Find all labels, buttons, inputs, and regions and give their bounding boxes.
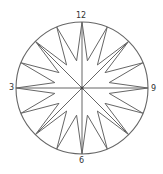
- star-figure: [0, 0, 163, 174]
- label-right: 9: [151, 85, 156, 93]
- center-ray: [82, 41, 129, 88]
- compass-star-diagram: 12 9 6 3: [0, 0, 163, 174]
- label-left: 3: [9, 84, 14, 92]
- label-top: 12: [76, 12, 86, 20]
- center-dot: [81, 87, 84, 90]
- center-ray: [35, 41, 82, 88]
- label-bottom: 6: [79, 157, 84, 165]
- center-ray: [82, 88, 129, 135]
- center-ray: [35, 88, 82, 135]
